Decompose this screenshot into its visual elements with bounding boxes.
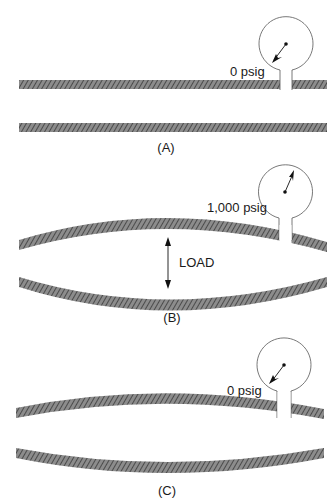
caption-a: (A) xyxy=(157,140,174,155)
panel-c: 0 psig (C) xyxy=(16,338,324,498)
pressure-gauge-icon xyxy=(259,17,313,90)
caption-c: (C) xyxy=(158,483,176,498)
panel-a: 0 psig (A) xyxy=(19,17,327,155)
double-arrow-icon xyxy=(165,237,171,289)
pipe-wall-bottom xyxy=(19,123,327,132)
gauge-label-a: 0 psig xyxy=(230,64,265,79)
pipe-wall-bottom-deformed xyxy=(16,448,324,473)
pipe-wall-top xyxy=(19,80,280,89)
pipe-pressure-diagram: 0 psig (A) 1,000 psig LOAD (B) xyxy=(0,0,336,501)
load-label: LOAD xyxy=(179,255,214,270)
pipe-wall-top-right xyxy=(292,80,327,89)
gauge-label-b: 1,000 psig xyxy=(207,200,267,215)
panel-b: 1,000 psig LOAD (B) xyxy=(19,165,327,325)
gauge-label-c: 0 psig xyxy=(227,383,262,398)
pipe-wall-bottom-bulged xyxy=(19,277,327,311)
caption-b: (B) xyxy=(163,310,180,325)
